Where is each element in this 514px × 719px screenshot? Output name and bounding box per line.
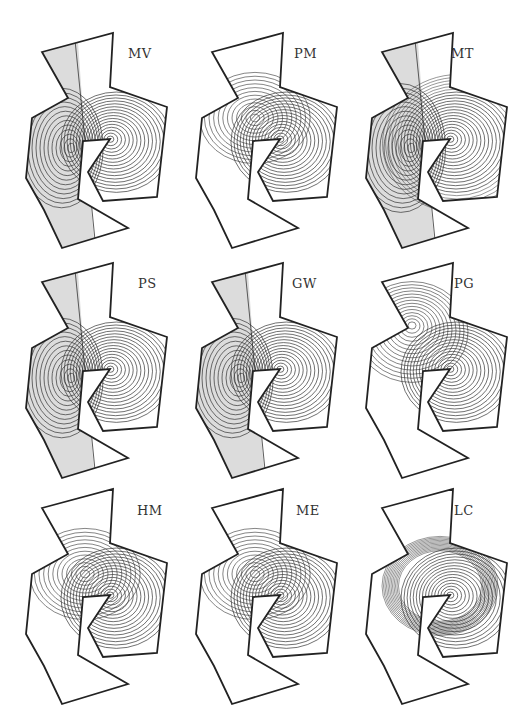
panel-label: LC <box>454 503 474 518</box>
panel-pm: PM <box>170 0 342 240</box>
domain-plot <box>170 0 342 240</box>
panel-label: PG <box>454 276 474 291</box>
panel-hm: HM <box>0 478 172 718</box>
panel-lc: LC <box>340 478 512 718</box>
panel-label: ME <box>296 503 320 518</box>
panel-mv: MV <box>0 0 172 240</box>
domain-plot <box>340 0 512 240</box>
panel-ps: PS <box>0 240 172 480</box>
panel-label: HM <box>137 503 163 518</box>
panel-label: GW <box>292 276 317 291</box>
domain-plot <box>340 478 512 718</box>
panel-label: MV <box>128 46 152 61</box>
panel-label: PS <box>138 276 157 291</box>
domain-plot <box>0 0 172 240</box>
contour-figure-grid: MV PM MT PS GW PG HM ME LC <box>0 0 514 719</box>
panel-mt: MT <box>340 0 512 240</box>
panel-gw: GW <box>170 240 342 480</box>
panel-pg: PG <box>340 240 512 480</box>
domain-plot <box>340 240 512 480</box>
panel-me: ME <box>170 478 342 718</box>
panel-label: PM <box>294 46 317 61</box>
panel-label: MT <box>451 46 474 61</box>
